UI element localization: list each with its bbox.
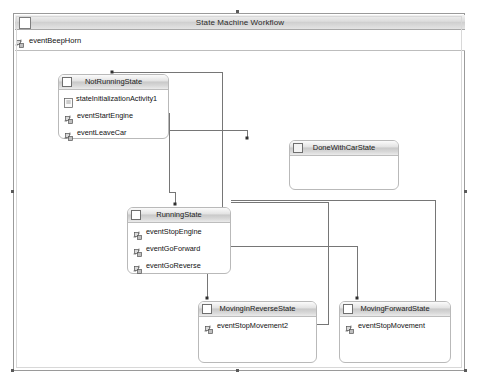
state-body: eventStopEngine eventGoForward	[128, 223, 230, 274]
root-event-activity-row[interactable]: eventBeepHorn	[15, 30, 465, 51]
state-header[interactable]: MovingInReverseState	[199, 302, 316, 317]
activity-row-event-stop-engine[interactable]: eventStopEngine	[128, 223, 230, 240]
activity-label: eventStartEngine	[77, 111, 133, 120]
activity-row-event-go-forward[interactable]: eventGoForward	[128, 240, 230, 257]
state-title: MovingForwardState	[360, 302, 429, 316]
resize-handle-bottom-left[interactable]	[11, 369, 14, 372]
activity-label: eventStopMovement	[358, 321, 425, 330]
activity-label: eventGoForward	[146, 244, 200, 253]
event-driven-activity-icon	[204, 321, 214, 331]
event-driven-activity-icon	[345, 321, 355, 331]
resize-handle-right[interactable]	[464, 190, 467, 193]
workflow-designer-frame: State Machine Workflow eventBeepHorn	[13, 13, 465, 371]
state-box-running-state[interactable]: RunningState eventStopEngine	[127, 207, 231, 274]
state-header[interactable]: NotRunningState	[59, 75, 168, 90]
activity-row-event-go-reverse[interactable]: eventGoReverse	[128, 257, 230, 274]
activity-row-state-initialization[interactable]: stateInitializationActivity1	[59, 90, 168, 107]
state-header[interactable]: RunningState	[128, 208, 230, 223]
state-header[interactable]: DoneWithCarState	[290, 141, 398, 156]
activity-label: stateInitializationActivity1	[76, 94, 157, 103]
state-box-done-with-car-state[interactable]: DoneWithCarState	[289, 140, 399, 190]
workflow-canvas[interactable]: NotRunningState stateInitializationActiv…	[17, 52, 463, 368]
state-body: eventStopMovement	[340, 317, 450, 334]
state-activity-icon	[293, 143, 303, 153]
state-title: NotRunningState	[85, 75, 142, 89]
event-driven-activity-icon	[64, 111, 74, 121]
state-initialization-icon	[64, 94, 73, 104]
resize-handle-bottom-right[interactable]	[464, 369, 467, 372]
root-event-label: eventBeepHorn	[29, 36, 81, 45]
activity-row-event-leave-car[interactable]: eventLeaveCar	[59, 124, 168, 141]
state-body: eventStopMovement2	[199, 317, 316, 334]
event-driven-activity-icon	[133, 261, 143, 271]
state-box-not-running-state[interactable]: NotRunningState stateInitializationActiv…	[58, 74, 169, 139]
state-activity-icon	[202, 304, 212, 314]
activity-label: eventStopMovement2	[217, 321, 288, 330]
activity-row-event-stop-movement2[interactable]: eventStopMovement2	[199, 317, 316, 334]
activity-row-event-start-engine[interactable]: eventStartEngine	[59, 107, 168, 124]
event-driven-activity-icon	[133, 244, 143, 254]
activity-label: eventGoReverse	[146, 261, 201, 270]
state-box-moving-forward-state[interactable]: MovingForwardState eventStopMovement	[339, 301, 451, 363]
state-title: MovingInReverseState	[220, 302, 296, 316]
activity-label: eventStopEngine	[146, 227, 202, 236]
resize-handle-top[interactable]	[236, 10, 239, 13]
state-title: DoneWithCarState	[313, 141, 376, 155]
activity-row-event-stop-movement[interactable]: eventStopMovement	[340, 317, 450, 334]
event-driven-activity-icon	[64, 128, 74, 138]
event-driven-activity-icon	[133, 227, 143, 237]
state-activity-icon	[62, 77, 72, 87]
resize-handle-bottom[interactable]	[236, 369, 239, 372]
state-box-moving-in-reverse-state[interactable]: MovingInReverseState eventStopMovement2	[198, 301, 317, 363]
window-title: State Machine Workflow	[15, 15, 465, 30]
resize-handle-left[interactable]	[11, 190, 14, 193]
event-driven-activity-icon	[15, 35, 25, 45]
state-activity-icon	[343, 304, 353, 314]
activity-label: eventLeaveCar	[77, 128, 127, 137]
state-header[interactable]: MovingForwardState	[340, 302, 450, 317]
state-body: stateInitializationActivity1 eventStartE…	[59, 90, 168, 141]
window-title-bar: State Machine Workflow	[15, 15, 465, 30]
state-activity-icon	[131, 210, 141, 220]
state-title: RunningState	[156, 208, 201, 222]
